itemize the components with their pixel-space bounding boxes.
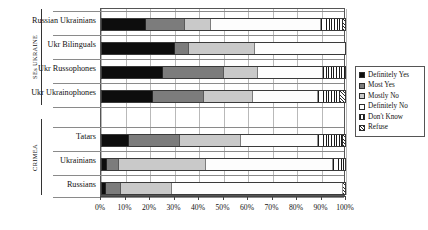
category-label-tatars: Tatars — [0, 133, 96, 141]
gridline-100pct — [346, 9, 347, 195]
segment-definitely-yes — [102, 67, 163, 78]
segment-dont-know — [323, 67, 345, 78]
legend-swatch-dont-know-icon — [359, 114, 365, 120]
x-tick-mark-20pct — [149, 196, 150, 200]
segment-definitely-yes — [102, 43, 175, 54]
segment-definitely-yes — [102, 91, 153, 102]
legend-item-refuse[interactable]: Refuse — [359, 123, 422, 134]
x-tick-label-100pct: 100% — [331, 203, 359, 212]
segment-dont-know — [321, 19, 343, 30]
segment-most-yes — [175, 43, 190, 54]
legend-label-definitely-no: Definitely No — [368, 103, 408, 110]
segment-refuse — [343, 19, 345, 30]
legend-item-definitely-yes[interactable]: Definitely Yes — [359, 70, 422, 81]
category-separator-2 — [53, 59, 344, 60]
segment-definitely-no — [206, 159, 332, 170]
bar-ukr-ukrainophones — [101, 90, 346, 103]
category-label-ukr-bilinguals: Ukr Bilinguals — [0, 41, 96, 49]
legend-item-most-yes[interactable]: Most Yes — [359, 81, 422, 92]
category-separator-0 — [53, 11, 344, 12]
segment-most-yes — [146, 19, 185, 30]
segment-most-yes — [107, 159, 119, 170]
category-separator-3 — [53, 83, 344, 84]
category-label-ukr-russophones: Ukr Russophones — [0, 65, 96, 73]
segment-dont-know — [318, 135, 342, 146]
segment-mostly-no — [185, 19, 212, 30]
bar-russian-ukrainians — [101, 18, 346, 31]
x-tick-mark-90pct — [321, 196, 322, 200]
segment-most-yes — [163, 67, 224, 78]
segment-mostly-no — [204, 91, 253, 102]
segment-mostly-no — [189, 43, 255, 54]
legend-item-definitely-no[interactable]: Definitely No — [359, 102, 422, 113]
category-separator-1 — [53, 35, 344, 36]
bar-tatars — [101, 134, 346, 147]
legend-swatch-mostly-no-icon — [359, 93, 365, 99]
legend-label-definitely-yes: Definitely Yes — [368, 72, 409, 79]
stacked-bar-chart: SEs UKRAINE CRIMEA Russian Ukrainians Uk… — [0, 0, 428, 230]
legend-label-most-yes: Most Yes — [368, 82, 395, 89]
x-tick-mark-50pct — [223, 196, 224, 200]
x-tick-mark-100pct — [345, 196, 346, 200]
segment-definitely-no — [211, 19, 320, 30]
segment-mostly-no — [119, 159, 206, 170]
x-tick-mark-60pct — [247, 196, 248, 200]
legend-label-refuse: Refuse — [368, 124, 388, 131]
segment-mostly-no — [224, 67, 258, 78]
segment-most-yes — [129, 135, 180, 146]
segment-refuse — [340, 91, 345, 102]
segment-refuse — [343, 135, 345, 146]
legend-item-mostly-no[interactable]: Mostly No — [359, 91, 422, 102]
segment-definitely-no — [253, 91, 319, 102]
segment-definitely-yes — [102, 19, 146, 30]
segment-definitely-no — [241, 135, 319, 146]
x-tick-mark-70pct — [272, 196, 273, 200]
segment-refuse — [343, 183, 345, 194]
category-label-ukrainians: Ukrainians — [0, 157, 96, 165]
legend-item-dont-know[interactable]: Don't Know — [359, 112, 422, 123]
bar-ukr-bilinguals — [101, 42, 346, 55]
x-tick-mark-0pct — [100, 196, 101, 200]
category-separator-4 — [53, 107, 344, 108]
category-label-russian-ukrainians: Russian Ukrainians — [0, 17, 96, 25]
category-label-ukr-ukrainophones: Ukr Ukrainophones — [0, 89, 96, 97]
category-separator-7 — [53, 175, 344, 176]
legend: Definitely YesMost YesMostly NoDefinitel… — [355, 66, 425, 137]
legend-label-mostly-no: Mostly No — [368, 93, 399, 100]
x-tick-mark-10pct — [125, 196, 126, 200]
segment-most-yes — [153, 91, 204, 102]
bar-russians — [101, 182, 346, 195]
segment-definitely-no — [172, 183, 342, 194]
segment-definitely-no — [258, 67, 324, 78]
segment-definitely-no — [255, 43, 345, 54]
segment-mostly-no — [121, 183, 172, 194]
bar-ukrainians — [101, 158, 346, 171]
legend-swatch-definitely-yes-icon — [359, 72, 365, 78]
x-tick-mark-40pct — [198, 196, 199, 200]
segment-mostly-no — [180, 135, 241, 146]
plot-area — [100, 8, 345, 196]
legend-label-dont-know: Don't Know — [368, 114, 403, 121]
category-label-russians: Russians — [0, 181, 96, 189]
category-separator-5 — [53, 127, 344, 128]
legend-swatch-refuse-icon — [359, 125, 365, 131]
x-tick-mark-80pct — [296, 196, 297, 200]
legend-swatch-most-yes-icon — [359, 83, 365, 89]
segment-definitely-yes — [102, 135, 129, 146]
x-tick-mark-30pct — [174, 196, 175, 200]
category-separator-6 — [53, 151, 344, 152]
segment-dont-know — [333, 159, 345, 170]
segment-most-yes — [106, 183, 122, 194]
legend-swatch-definitely-no-icon — [359, 104, 365, 110]
segment-dont-know — [318, 91, 340, 102]
bar-ukr-russophones — [101, 66, 346, 79]
